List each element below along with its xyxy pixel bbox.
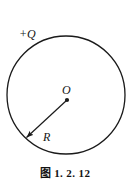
center-point-dot bbox=[65, 98, 69, 102]
center-label: O bbox=[62, 84, 71, 96]
figure-container: +Q O R 图 1. 2. 12 bbox=[0, 0, 130, 187]
radius-label: R bbox=[43, 131, 50, 143]
charge-label: +Q bbox=[19, 28, 36, 40]
figure-caption: 图 1. 2. 12 bbox=[0, 167, 130, 180]
